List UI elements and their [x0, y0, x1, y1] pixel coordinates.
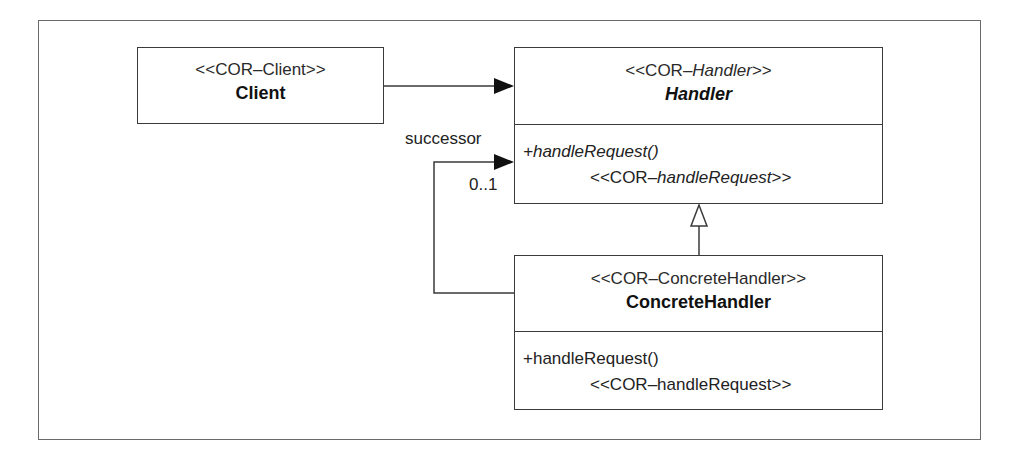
handler-name: Handler — [515, 82, 882, 106]
stereotype-prefix: <<COR– — [625, 61, 692, 80]
stereotype-italic: Handler — [692, 61, 752, 80]
concrete-handler-divider — [515, 331, 882, 332]
successor-multiplicity-label: 0..1 — [469, 175, 497, 195]
stereotype-suffix: >> — [771, 168, 791, 187]
client-name-compartment: <<COR–Client>> Client — [138, 59, 383, 105]
client-class[interactable]: <<COR–Client>> Client — [137, 47, 384, 124]
concrete-handler-class[interactable]: <<COR–ConcreteHandler>> ConcreteHandler … — [514, 255, 883, 410]
generalization-edge — [691, 205, 707, 255]
handler-stereotype: <<COR–Handler>> — [515, 60, 882, 82]
handler-divider — [515, 124, 882, 125]
successor-role-label: successor — [405, 129, 482, 149]
stereotype-suffix: >> — [752, 61, 772, 80]
stereotype-italic: handleRequest — [657, 168, 771, 187]
concrete-handler-operation: +handleRequest() — [523, 347, 659, 371]
stereotype-prefix: <<COR– — [590, 168, 657, 187]
arrowhead-icon — [494, 154, 514, 170]
client-to-handler-association — [383, 78, 514, 94]
handler-name-compartment: <<COR–Handler>> Handler — [515, 60, 882, 106]
handler-class[interactable]: <<COR–Handler>> Handler +handleRequest()… — [514, 47, 883, 204]
concrete-handler-name-compartment: <<COR–ConcreteHandler>> ConcreteHandler — [515, 268, 882, 314]
concrete-handler-stereotype: <<COR–ConcreteHandler>> — [515, 268, 882, 290]
client-name: Client — [138, 81, 383, 105]
handler-operation-stereotype: <<COR–handleRequest>> — [590, 166, 791, 190]
concrete-handler-name: ConcreteHandler — [515, 290, 882, 314]
inheritance-triangle-icon — [691, 205, 707, 226]
handler-operation: +handleRequest() — [523, 140, 659, 164]
concrete-handler-operation-stereotype: <<COR–handleRequest>> — [590, 373, 791, 397]
client-stereotype: <<COR–Client>> — [138, 59, 383, 81]
arrowhead-icon — [494, 78, 514, 94]
